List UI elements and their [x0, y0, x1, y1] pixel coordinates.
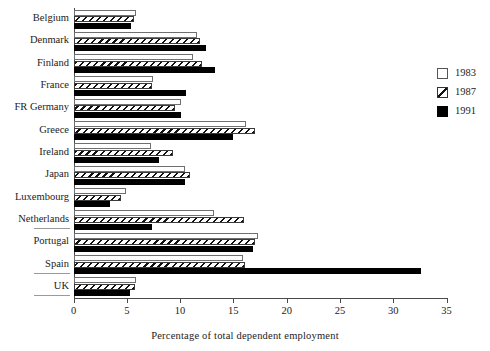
bar: [74, 83, 153, 89]
bar: [74, 99, 182, 105]
bar: [74, 210, 215, 216]
bar: [74, 157, 159, 163]
bar: [74, 150, 173, 156]
bar: [74, 121, 247, 127]
bar: [74, 112, 182, 118]
bar: [74, 61, 203, 67]
bar: [74, 166, 186, 172]
legend-label-1991: 1991: [455, 106, 476, 117]
bar: [74, 262, 246, 268]
bar: [74, 105, 175, 111]
bar: [74, 224, 153, 230]
bar: [74, 32, 198, 38]
x-tick-label: 35: [441, 305, 452, 316]
x-tick-label: 15: [228, 305, 239, 316]
bar: [74, 217, 245, 223]
bar: [74, 90, 187, 96]
category-label: Portugal: [0, 235, 69, 246]
category-label: Netherlands: [0, 213, 69, 224]
bar-chart: 05101520253035 BelgiumDenmarkFinlandFran…: [0, 0, 490, 351]
x-tick: [393, 298, 394, 303]
bar: [74, 239, 255, 245]
x-axis-title: Percentage of total dependent employment: [0, 330, 490, 341]
category-label: Luxembourg: [0, 191, 69, 202]
category-label: Spain: [0, 258, 69, 269]
x-tick-label: 30: [388, 305, 399, 316]
bar: [74, 76, 154, 82]
category-label: Greece: [0, 124, 69, 135]
label-underline: [34, 228, 70, 229]
bar: [74, 128, 255, 134]
x-tick-label: 25: [335, 305, 346, 316]
category-label: FR Germany: [0, 101, 69, 112]
x-axis-line: [74, 298, 447, 299]
legend-item-1987: 1987: [437, 85, 476, 100]
x-tick-label: 10: [175, 305, 186, 316]
category-label: Japan: [0, 168, 69, 179]
bar: [74, 277, 137, 283]
legend-item-1991: 1991: [437, 104, 476, 119]
bar: [74, 10, 137, 16]
bar: [74, 23, 132, 29]
x-tick-label: 0: [71, 305, 76, 316]
bar: [74, 143, 152, 149]
category-label: Belgium: [0, 12, 69, 23]
bar: [74, 246, 253, 252]
x-tick-label: 5: [124, 305, 129, 316]
bar: [74, 172, 190, 178]
x-tick: [233, 298, 234, 303]
bar: [74, 195, 122, 201]
bar: [74, 201, 110, 207]
legend-label-1987: 1987: [455, 87, 476, 98]
bar: [74, 67, 216, 73]
bar: [74, 255, 243, 261]
x-tick: [74, 298, 75, 303]
bar: [74, 188, 126, 194]
category-label: Finland: [0, 57, 69, 68]
label-underline: [34, 295, 70, 296]
category-label: Denmark: [0, 34, 69, 45]
category-label: France: [0, 79, 69, 90]
bar: [74, 290, 130, 296]
bar: [74, 54, 193, 60]
x-tick: [127, 298, 128, 303]
bar: [74, 16, 135, 22]
x-tick-label: 20: [281, 305, 292, 316]
legend-item-1983: 1983: [437, 66, 476, 81]
bar: [74, 233, 258, 239]
bar: [74, 134, 234, 140]
bar: [74, 38, 201, 44]
open-square-icon: [437, 68, 448, 79]
category-label: UK: [0, 280, 69, 291]
hatched-square-icon: [437, 87, 448, 98]
category-label: Ireland: [0, 146, 69, 157]
x-tick: [447, 298, 448, 303]
bar: [74, 284, 136, 290]
legend-label-1983: 1983: [455, 68, 476, 79]
bar: [74, 45, 206, 51]
x-tick: [287, 298, 288, 303]
label-underline: [34, 273, 70, 274]
chart-legend: 1983 1987 1991: [437, 66, 476, 123]
x-tick: [180, 298, 181, 303]
bar: [74, 268, 421, 274]
filled-square-icon: [437, 106, 448, 117]
bar: [74, 179, 186, 185]
x-tick: [340, 298, 341, 303]
